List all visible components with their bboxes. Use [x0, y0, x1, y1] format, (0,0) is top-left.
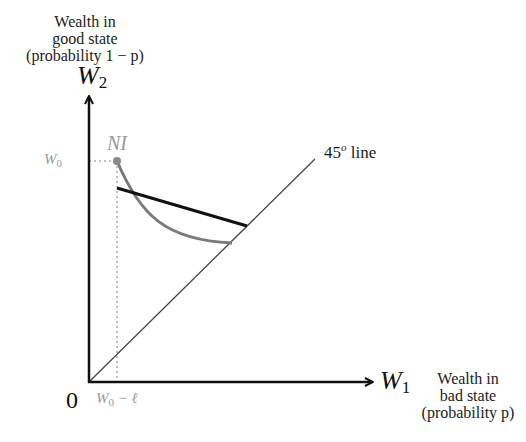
x-axis-description-line: (probability p): [412, 405, 524, 422]
x-axis-description-line: bad state: [412, 388, 524, 405]
y-tick-letter: W: [44, 151, 57, 167]
y-axis-description: Wealth in good state (probability 1 − p): [10, 14, 160, 64]
budget-line: [117, 188, 247, 226]
line45-text: line: [347, 143, 377, 162]
indifference-curve: [117, 161, 232, 243]
x-axis-symbol-letter: W: [380, 366, 402, 395]
y-axis-symbol-letter: W: [77, 61, 99, 90]
origin-label: 0: [66, 388, 78, 413]
x-axis-description-line: Wealth in: [412, 371, 524, 388]
y-axis-symbol-subscript: 2: [99, 73, 108, 92]
y-tick-w0: W0: [44, 152, 62, 170]
line45-number: 45: [324, 143, 341, 162]
forty-five-degree-line: [89, 159, 315, 382]
x-axis-symbol: W1: [380, 367, 410, 397]
x-axis-description: Wealth in bad state (probability p): [412, 371, 524, 421]
x-tick-suffix: − ℓ: [114, 390, 138, 406]
no-insurance-point: [113, 157, 121, 165]
ni-point-label: NI: [107, 133, 127, 154]
forty-five-line-label: 45o line: [324, 142, 376, 162]
y-axis-description-line: good state: [10, 31, 160, 48]
y-axis-symbol: W2: [77, 62, 107, 92]
x-tick-letter: W: [96, 390, 109, 406]
y-axis-description-line: Wealth in: [10, 14, 160, 31]
x-axis-symbol-subscript: 1: [402, 378, 411, 397]
x-tick-w0-minus-loss: W0 − ℓ: [96, 391, 138, 409]
y-tick-subscript: 0: [57, 157, 63, 169]
